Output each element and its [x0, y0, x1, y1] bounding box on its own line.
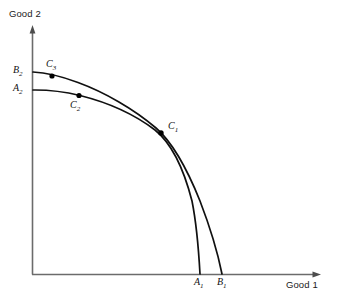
y-axis	[30, 25, 36, 275]
label-C1: C1	[168, 120, 178, 134]
label-C3: C3	[46, 58, 56, 72]
data-point-C1	[158, 130, 163, 135]
label-C1-subscript: 1	[175, 126, 179, 134]
y-axis-arrowhead	[30, 25, 36, 34]
outer-frontier-curve	[33, 72, 222, 274]
label-A1: A1	[194, 276, 204, 290]
ppf-chart-canvas	[0, 0, 339, 298]
label-C1-text: C	[168, 120, 175, 131]
x-axis	[32, 272, 321, 278]
label-C3-subscript: 3	[53, 64, 57, 72]
chart-figure: Good 2 Good 1 B2 A2 C3 C2 C1 A1 B1	[0, 0, 339, 298]
label-B2-subscript: 2	[19, 70, 23, 78]
label-C2-text: C	[70, 99, 77, 110]
label-A1-subscript: 1	[200, 282, 204, 290]
inner-frontier-curve	[33, 90, 200, 274]
x-axis-title: Good 1	[286, 279, 318, 290]
label-B1: B1	[217, 276, 227, 290]
y-axis-title: Good 2	[9, 8, 41, 19]
label-C3-text: C	[46, 58, 53, 69]
label-B2: B2	[13, 64, 23, 78]
label-C2: C2	[70, 99, 80, 113]
x-axis-arrowhead	[313, 272, 322, 278]
data-point-C2	[76, 93, 81, 98]
data-point-C3	[49, 73, 54, 78]
label-B1-subscript: 1	[223, 282, 227, 290]
label-C2-subscript: 2	[77, 105, 81, 113]
label-A2-subscript: 2	[19, 88, 23, 96]
label-A2: A2	[13, 82, 23, 96]
